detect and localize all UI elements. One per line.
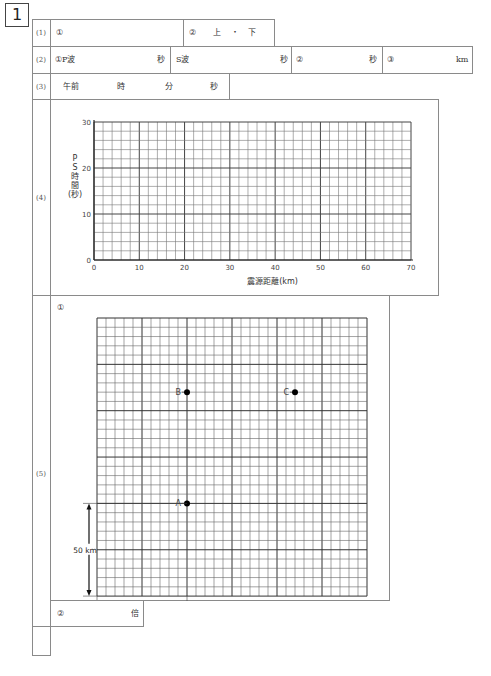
time-prefix: 午前 (63, 83, 79, 91)
y-tick-label: 10 (82, 211, 91, 219)
point-a-label: A (176, 499, 182, 508)
y-axis-label: 時 (71, 172, 79, 181)
question-number: 1 (5, 3, 29, 27)
option-separator: ・ (231, 29, 239, 37)
y-tick-label: 30 (82, 119, 91, 127)
answer-1-2-field[interactable] (183, 19, 275, 47)
point-c-marker (292, 389, 298, 395)
vertical-scale-arrow-up (87, 503, 92, 509)
answer-1-1-field[interactable] (50, 19, 184, 47)
row-2-label: (2) (36, 57, 46, 64)
answer-2-3-number: ③ (387, 56, 394, 64)
hour-unit: 時 (117, 83, 125, 91)
x-tick-label: 70 (407, 264, 416, 272)
row-4-label: (4) (36, 195, 46, 202)
y-tick-label: 20 (82, 165, 91, 173)
answer-2-2-number: ② (296, 56, 303, 64)
minute-unit: 分 (165, 83, 173, 91)
point-c-label: C (283, 388, 289, 397)
answer-1-1-number: ① (56, 29, 63, 37)
row-1-label: (1) (36, 30, 46, 37)
answer-2-2-unit: 秒 (369, 56, 377, 64)
answer-5-2-number: ② (57, 610, 64, 618)
x-tick-label: 60 (361, 264, 370, 272)
answer-1-2-number: ② (189, 29, 196, 37)
point-b-label: B (176, 388, 182, 397)
x-tick-label: 0 (92, 264, 96, 272)
answer-2-3-unit: km (456, 56, 468, 64)
y-axis-label: 間 (71, 181, 79, 190)
x-tick-label: 10 (135, 264, 144, 272)
option-down[interactable]: 下 (248, 29, 256, 37)
answer-5-2-field[interactable] (50, 600, 144, 627)
x-tick-label: 30 (225, 264, 234, 272)
y-tick-label: 0 (87, 257, 91, 265)
y-axis-label: S (72, 163, 77, 172)
option-up[interactable]: 上 (213, 29, 221, 37)
s-wave-label: S波 (176, 56, 189, 64)
vertical-scale-label: 50 km (73, 546, 97, 555)
y-axis-label: P (73, 154, 78, 163)
row-5-label: (5) (36, 471, 46, 478)
row-3-label: (3) (36, 84, 46, 91)
answer-5-2-unit: 倍 (131, 610, 139, 618)
p-wave-unit: 秒 (157, 56, 165, 64)
second-unit: 秒 (210, 83, 218, 91)
s-wave-unit: 秒 (280, 56, 288, 64)
x-tick-label: 50 (316, 264, 325, 272)
point-b-marker (184, 389, 190, 395)
p-wave-label: ①P波 (55, 56, 75, 64)
x-tick-label: 40 (271, 264, 280, 272)
row-5-bottom-border (32, 626, 51, 627)
ps-time-chart[interactable]: 0102030405060700102030震源距離(km)PS時間(秒) (50, 99, 439, 296)
x-tick-label: 20 (180, 264, 189, 272)
vertical-scale-arrow-down (87, 590, 92, 596)
y-axis-label: (秒) (68, 189, 82, 199)
x-axis-label: 震源距離(km) (247, 276, 298, 286)
epicenter-grid-map[interactable]: BCA50 km50 km (50, 295, 390, 601)
